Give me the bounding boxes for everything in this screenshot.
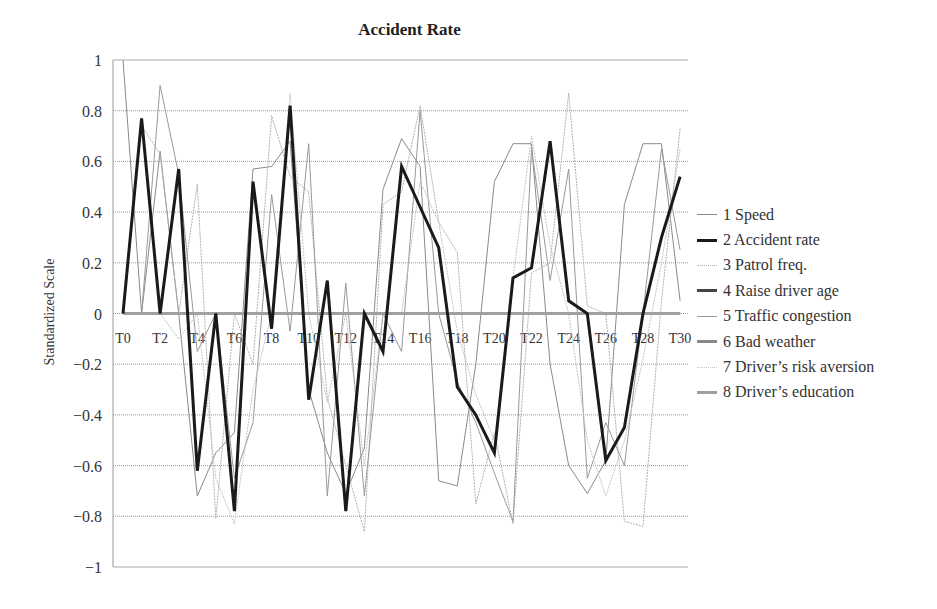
legend-item: 1 Speed — [697, 202, 874, 227]
x-tick-label: T30 — [669, 331, 692, 346]
y-tick-label: −0.6 — [73, 458, 102, 475]
x-tick-label: T16 — [409, 331, 432, 346]
y-tick-label: −0.8 — [73, 508, 102, 525]
legend-label: 8 Driver’s education — [723, 383, 854, 401]
legend-swatch-icon — [697, 340, 717, 343]
legend-swatch-icon — [697, 367, 717, 368]
x-tick-label: T22 — [520, 331, 543, 346]
legend: 1 Speed2 Accident rate3 Patrol freq.4 Ra… — [697, 202, 874, 405]
x-tick-label: T2 — [152, 331, 168, 346]
legend-item: 5 Traffic congestion — [697, 304, 874, 329]
series-line — [123, 93, 680, 524]
legend-label: 6 Bad weather — [723, 333, 815, 351]
y-tick-label: −0.4 — [73, 407, 102, 424]
legend-swatch-icon — [697, 214, 717, 215]
legend-item: 2 Accident rate — [697, 227, 874, 252]
x-tick-label: T6 — [227, 331, 243, 346]
legend-swatch-icon — [697, 265, 717, 266]
y-tick-label: 1 — [94, 52, 102, 69]
series-line — [123, 85, 680, 521]
y-tick-label: 0.6 — [82, 153, 102, 170]
y-tick-label: −0.2 — [73, 356, 102, 373]
x-tick-label: T26 — [595, 331, 618, 346]
legend-label: 2 Accident rate — [723, 231, 820, 249]
y-tick-label: −1 — [85, 559, 102, 576]
y-axis-ticks: 10.80.60.40.20−0.2−0.4−0.6−0.8−1 — [73, 52, 102, 576]
y-axis-label: Standardized Scale — [42, 252, 58, 372]
legend-swatch-icon — [697, 316, 717, 317]
legend-item: 6 Bad weather — [697, 329, 874, 354]
x-tick-label: T20 — [483, 331, 506, 346]
legend-swatch-icon — [697, 391, 717, 394]
legend-item: 7 Driver’s risk aversion — [697, 354, 874, 379]
legend-label: 4 Raise driver age — [723, 282, 839, 300]
legend-item: 8 Driver’s education — [697, 380, 874, 405]
series-line — [123, 60, 680, 496]
y-tick-label: 0.4 — [82, 204, 102, 221]
legend-label: 1 Speed — [723, 206, 774, 224]
legend-swatch-icon — [697, 289, 717, 292]
legend-label: 7 Driver’s risk aversion — [723, 358, 874, 376]
x-tick-label: T0 — [115, 331, 131, 346]
legend-item: 3 Patrol freq. — [697, 253, 874, 278]
series-lines — [123, 60, 680, 532]
y-tick-label: 0.2 — [82, 255, 102, 272]
y-tick-label: 0 — [94, 306, 102, 323]
x-tick-label: T8 — [264, 331, 280, 346]
y-tick-label: 0.8 — [82, 103, 102, 120]
x-tick-label: T28 — [632, 331, 655, 346]
x-tick-label: T24 — [557, 331, 580, 346]
legend-label: 3 Patrol freq. — [723, 256, 807, 274]
x-tick-label: T12 — [335, 331, 358, 346]
x-tick-label: T4 — [189, 331, 205, 346]
legend-label: 5 Traffic congestion — [723, 307, 852, 325]
legend-swatch-icon — [697, 239, 717, 242]
legend-item: 4 Raise driver age — [697, 278, 874, 303]
